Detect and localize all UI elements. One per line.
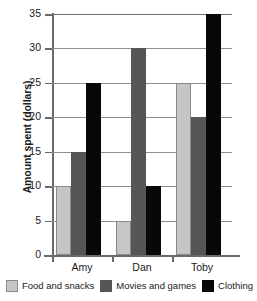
bar-toby-food-and-snacks	[176, 83, 191, 255]
y-tick-label-5: 5	[35, 214, 41, 226]
legend-label-food-and-snacks: Food and snacks	[22, 281, 94, 291]
bar-dan-movies-and-games	[131, 48, 146, 255]
y-tick-label-0: 0	[35, 248, 41, 260]
legend-swatch-food-and-snacks	[6, 280, 18, 292]
bar-amy-clothing	[86, 83, 101, 255]
legend-swatch-movies-and-games	[100, 280, 112, 292]
y-tick-label-10: 10	[29, 179, 41, 191]
bar-amy-movies-and-games	[71, 152, 86, 255]
bar-group-dan	[112, 14, 172, 255]
y-tick-label-25: 25	[29, 76, 41, 88]
bar-dan-clothing	[146, 186, 161, 255]
y-tick-25: 25	[45, 83, 52, 85]
bar-dan-food-and-snacks	[116, 221, 131, 255]
y-tick-label-30: 30	[29, 41, 41, 53]
y-tick-label-15: 15	[29, 145, 41, 157]
plot-area: 05101520253035	[52, 14, 232, 255]
chart-legend: Food and snacksMovies and gamesClothing	[6, 280, 254, 292]
legend-swatch-clothing	[202, 280, 214, 292]
legend-label-clothing: Clothing	[218, 281, 253, 291]
legend-label-movies-and-games: Movies and games	[116, 281, 196, 291]
y-tick-35: 35	[45, 14, 52, 16]
x-axis-label-amy: Amy	[52, 261, 112, 273]
legend-item-movies-and-games[interactable]: Movies and games	[100, 280, 196, 292]
x-axis-label-dan: Dan	[112, 261, 172, 273]
legend-item-food-and-snacks[interactable]: Food and snacks	[6, 280, 94, 292]
x-axis-label-toby: Toby	[172, 261, 232, 273]
bar-amy-food-and-snacks	[56, 186, 71, 255]
legend-item-clothing[interactable]: Clothing	[202, 280, 253, 292]
y-tick-5: 5	[45, 221, 52, 223]
y-tick-30: 30	[45, 48, 52, 50]
y-tick-label-35: 35	[29, 7, 41, 19]
y-tick-10: 10	[45, 186, 52, 188]
y-tick-20: 20	[45, 117, 52, 119]
y-axis-title: Amount spent (dollars)	[21, 37, 33, 237]
bar-toby-movies-and-games	[191, 117, 206, 255]
x-axis-line	[44, 255, 240, 257]
y-tick-label-20: 20	[29, 110, 41, 122]
bars-layer	[52, 14, 232, 255]
bar-chart-figure: Amount spent (dollars) 05101520253035 Am…	[0, 0, 257, 301]
bar-group-amy	[52, 14, 112, 255]
bar-group-toby	[172, 14, 232, 255]
bar-toby-clothing	[206, 14, 221, 255]
y-tick-15: 15	[45, 152, 52, 154]
y-tick-0: 0	[45, 255, 52, 257]
